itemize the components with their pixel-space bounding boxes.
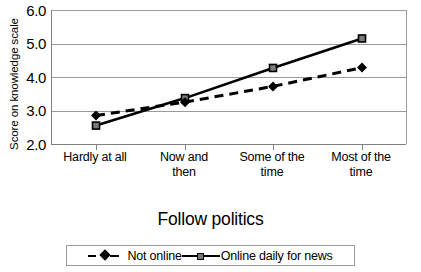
y-tick-label: 4.0: [14, 70, 46, 85]
x-tick-label-line: time: [311, 165, 411, 180]
y-tick-label: 6.0: [14, 3, 46, 18]
plot-area: [51, 10, 406, 145]
chart-legend: Not online Online daily for news: [66, 245, 355, 266]
dashed-diamond-line-icon: [88, 250, 126, 262]
y-tick-label: 2.0: [14, 137, 46, 152]
x-tick-label-line: then: [134, 165, 234, 180]
chart-container: Score on knowledge scale 6.0 5.0 4.0 3.0…: [0, 0, 421, 272]
series-not-online: [96, 68, 362, 116]
series-online-daily-for-news: [96, 38, 362, 125]
plot-frame-right: [406, 10, 407, 144]
legend-label: Not online: [127, 249, 181, 263]
x-tick-label-line: Most of the: [311, 150, 411, 165]
y-tick-label: 3.0: [14, 103, 46, 118]
legend-entry-not-online[interactable]: Not online: [88, 249, 181, 263]
x-tick-label-hardly-at-all: Hardly at all: [45, 150, 145, 165]
x-axis-title: Follow politics: [0, 209, 421, 230]
x-tick-label-now-and-then: Now and then: [134, 150, 234, 180]
legend-entry-online-daily-for-news[interactable]: Online daily for news: [182, 249, 333, 263]
series-layer: [52, 10, 406, 144]
x-tick-label-most-of-the-time: Most of the time: [311, 150, 411, 180]
x-tick-label-some-of-the-time: Some of the time: [222, 150, 322, 180]
solid-square-line-icon: [182, 250, 220, 262]
x-tick-label-line: time: [222, 165, 322, 180]
y-tick-label: 5.0: [14, 36, 46, 51]
x-tick-label-line: Hardly at all: [45, 150, 145, 165]
legend-label: Online daily for news: [221, 249, 333, 263]
x-tick-label-line: Some of the: [222, 150, 322, 165]
x-axis-tick-labels: Hardly at all Now and then Some of the t…: [51, 150, 405, 190]
x-tick-label-line: Now and: [134, 150, 234, 165]
markers-not-online: [91, 63, 367, 121]
y-axis-tick-labels: 6.0 5.0 4.0 3.0 2.0: [0, 0, 46, 160]
